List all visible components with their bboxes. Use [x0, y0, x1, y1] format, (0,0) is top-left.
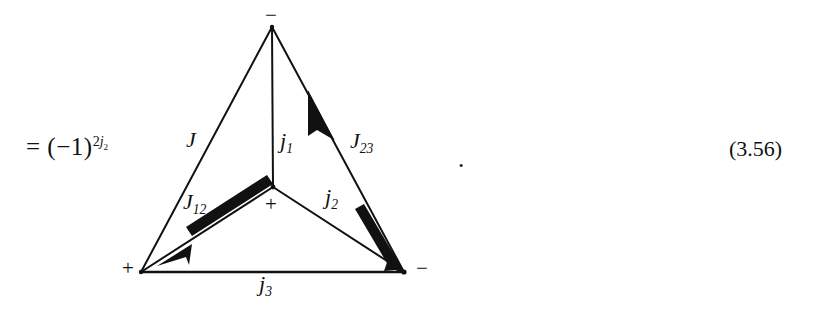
exponent-subscript: 2 [104, 141, 109, 151]
vertex-sign-bottom-right: − [416, 258, 428, 279]
edge-J12 [141, 187, 273, 272]
edge-j2 [273, 187, 404, 272]
exponent-coefficient: 2 [93, 134, 100, 149]
equals-sign: = [26, 133, 41, 160]
vertex-sign-top: − [265, 5, 277, 26]
vertex-bottom-right [401, 269, 406, 274]
equation-number: (3.56) [729, 138, 782, 160]
edge-label-j1: j1 [280, 130, 293, 156]
edge-label-j2-subscript: 2 [331, 197, 338, 212]
arrow-on-edge-J23 [308, 91, 334, 140]
edge-label-j3-subscript: 3 [265, 284, 272, 299]
arrow-on-edge-J12 [157, 175, 273, 266]
edge-label-J: J [186, 129, 196, 151]
edge-label-j1-subscript: 1 [286, 141, 293, 156]
equation-left-hand-side: = (−1)2j2 [26, 134, 108, 159]
arrow-on-edge-j2 [355, 204, 406, 274]
edge-j1 [272, 27, 273, 187]
edge-label-J-symbol: J [186, 127, 196, 152]
close-paren: ) [84, 133, 93, 160]
vertex-center [271, 185, 276, 190]
vertex-sign-bottom-left: + [122, 258, 134, 279]
edge-label-j3: j3 [259, 273, 272, 299]
edge-label-j2: j2 [325, 186, 338, 212]
vertex-sign-center: + [265, 194, 277, 215]
coupling-diagram-svg [110, 8, 450, 308]
vertex-bottom-left [139, 270, 143, 274]
edge-label-J12: J12 [183, 191, 206, 217]
coupling-diagram [110, 8, 450, 308]
minus-sign: − [56, 133, 71, 160]
edge-J [141, 27, 272, 272]
trailing-period: . [458, 146, 464, 171]
edge-label-J23-symbol: J [350, 128, 360, 153]
edge-label-J23-subscript: 23 [360, 141, 374, 156]
exponent: 2j2 [93, 134, 108, 149]
edge-label-J23: J23 [350, 130, 373, 156]
open-paren: ( [47, 133, 56, 160]
numeral-one: 1 [71, 133, 84, 160]
figure-canvas: = (−1)2j2 . (3.56) [0, 0, 833, 311]
edge-label-J12-subscript: 12 [193, 202, 207, 217]
edge-label-J12-symbol: J [183, 189, 193, 214]
